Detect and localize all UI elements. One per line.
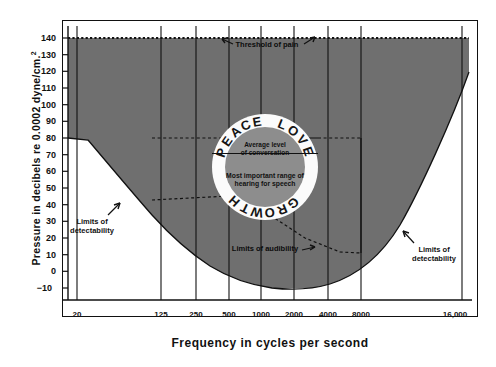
x-tick-8000: 8000 bbox=[345, 310, 377, 319]
y-tick-10: 10 bbox=[30, 250, 56, 260]
y-tick-50: 50 bbox=[30, 183, 56, 193]
x-tick-20: 20 bbox=[63, 310, 91, 319]
average-conversation-level-line bbox=[212, 153, 318, 154]
y-tick-0: 0 bbox=[30, 266, 56, 276]
y-tick-marks bbox=[62, 38, 68, 288]
x-tick-250: 250 bbox=[182, 310, 210, 319]
y-tick-40: 40 bbox=[30, 200, 56, 210]
y-tick-70: 70 bbox=[30, 150, 56, 160]
threshold-of-pain-label: Threshold of pain bbox=[227, 41, 307, 50]
y-tick-110: 110 bbox=[30, 83, 56, 93]
limits-of-audibility-label: Limits of audibility bbox=[227, 245, 303, 254]
y-tick-120: 120 bbox=[30, 66, 56, 76]
y-tick-100: 100 bbox=[30, 100, 56, 110]
y-tick-80: 80 bbox=[30, 133, 56, 143]
speech-range-label: Most important range of hearing for spee… bbox=[213, 172, 317, 189]
limits-of-detectability-right-label: Limits of detectability bbox=[398, 246, 470, 263]
limits-of-detectability-left-label: Limits of detectability bbox=[56, 218, 128, 235]
peace-love-growth-circle: PEACELOVEGROWTH Average level of convers… bbox=[212, 114, 318, 220]
limits-detect-left-line2: detectability bbox=[56, 227, 128, 236]
y-tick-30: 30 bbox=[30, 216, 56, 226]
x-tick-500: 500 bbox=[215, 310, 243, 319]
y-tick-90: 90 bbox=[30, 116, 56, 126]
average-level-conversation-label: Average level of conversation bbox=[225, 141, 305, 157]
y-tick-130: 130 bbox=[30, 50, 56, 60]
y-tick-140: 140 bbox=[30, 33, 56, 43]
speech-banana-disc: Average level of conversation Most impor… bbox=[225, 127, 305, 207]
speech-range-line2: hearing for speech bbox=[213, 180, 317, 188]
x-tick-1000: 1000 bbox=[245, 310, 277, 319]
x-tick-4000: 4000 bbox=[312, 310, 344, 319]
x-tick-16000: 16,000 bbox=[434, 310, 476, 319]
x-tick-125: 125 bbox=[147, 310, 175, 319]
speech-range-line1: Most important range of bbox=[213, 172, 317, 180]
x-tick-2000: 2000 bbox=[278, 310, 310, 319]
limits-detect-right-line2: detectability bbox=[398, 255, 470, 264]
y-tick-60: 60 bbox=[30, 166, 56, 176]
audiogram-figure: Pressure in decibels re 0.0002 dyne/cm.2… bbox=[0, 0, 496, 367]
y-tick-minus10: −10 bbox=[26, 283, 52, 293]
avg-level-line1: Average level bbox=[225, 141, 305, 149]
ring-letter: O bbox=[264, 205, 276, 221]
y-tick-20: 20 bbox=[30, 233, 56, 243]
